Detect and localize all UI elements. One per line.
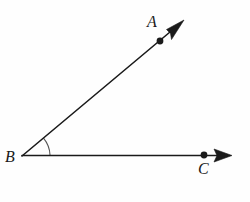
angle-arc	[44, 138, 51, 155]
point-a-marker	[157, 38, 164, 45]
point-c-marker	[201, 152, 208, 159]
ray-ba-arrowhead-icon	[167, 20, 185, 40]
angle-diagram-figure: A B C	[0, 0, 250, 202]
ray-bc-arrowhead-icon	[214, 149, 232, 162]
point-b-label: B	[5, 149, 15, 165]
geometry-canvas	[0, 0, 250, 202]
point-a-label: A	[147, 14, 157, 30]
point-c-label: C	[198, 161, 209, 177]
ray-ba-line	[22, 32, 170, 156]
